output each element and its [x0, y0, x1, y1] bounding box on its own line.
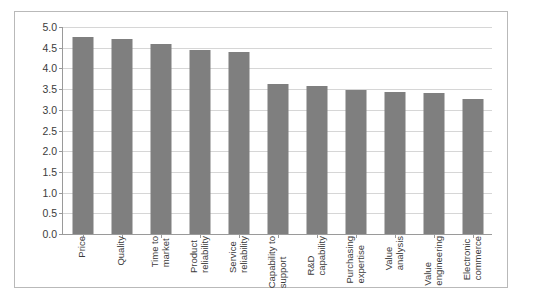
x-axis-tick-label-line: reliability [238, 236, 249, 273]
x-axis-tick-label-line: engineering [433, 236, 444, 286]
y-axis-tick-label: 3.5 [42, 84, 57, 95]
plot-area: 0.00.51.01.52.02.53.03.54.04.55.0 [62, 27, 492, 235]
bar-series [63, 27, 492, 234]
x-axis-label-slot: Price [62, 236, 101, 289]
x-axis-label-slot: Quality [101, 236, 140, 289]
bar[interactable] [423, 93, 444, 234]
x-axis-tick-label-line: expertise [355, 236, 366, 284]
bar-slot [219, 27, 258, 234]
x-axis-label-slot: Productreliability [179, 236, 218, 289]
x-axis-label-slot: R&Dcapability [296, 236, 335, 289]
bar-slot [375, 27, 414, 234]
x-axis-tick-label: R&Dcapability [305, 236, 326, 276]
x-axis-labels: PriceQualityTime tomarketProductreliabil… [62, 236, 491, 289]
y-axis-tick-label: 2.5 [42, 125, 57, 136]
x-axis-label-slot: Time tomarket [140, 236, 179, 289]
x-axis-tick-label-line: Product [188, 236, 199, 273]
bar[interactable] [462, 99, 483, 234]
bar[interactable] [267, 84, 288, 234]
bar[interactable] [384, 92, 405, 234]
x-axis-tick-label: Productreliability [188, 236, 209, 273]
x-axis-label-slot: Valueanalysis [374, 236, 413, 289]
x-axis-tick-label-line: Purchasing [344, 236, 355, 284]
x-axis-tick-label-line: Time to [149, 236, 160, 267]
x-axis-tick-label-line: support [277, 236, 288, 288]
bar[interactable] [306, 86, 327, 234]
bar[interactable] [189, 50, 210, 234]
x-axis-tick-label-line: capability [316, 236, 327, 276]
x-axis-label-slot: Capability tosupport [257, 236, 296, 289]
bar-slot [141, 27, 180, 234]
bar[interactable] [228, 52, 249, 234]
x-axis-tick-label-line: Service [227, 236, 238, 273]
x-axis-tick-label: Price [76, 236, 87, 258]
x-axis-tick-label: Electroniccommerce [461, 236, 482, 280]
y-axis-tick-label: 0.5 [42, 208, 57, 219]
y-axis-tick-mark [59, 234, 63, 235]
bar-slot [414, 27, 453, 234]
y-axis-tick-label: 2.0 [42, 146, 57, 157]
x-axis-tick-label: Purchasingexpertise [344, 236, 365, 284]
x-axis-tick-label-line: Price [76, 236, 87, 258]
x-axis-tick-label: Capability tosupport [266, 236, 287, 288]
bar[interactable] [345, 90, 366, 234]
x-axis-tick-label-line: Value [383, 236, 394, 270]
bar[interactable] [72, 37, 93, 234]
y-axis-tick-label: 4.5 [42, 42, 57, 53]
bar-slot [336, 27, 375, 234]
bar-chart: 0.00.51.01.52.02.53.03.54.04.55.0 PriceQ… [15, 12, 509, 289]
bar[interactable] [111, 39, 132, 234]
y-axis-tick-label: 0.0 [42, 229, 57, 240]
bar[interactable] [150, 44, 171, 234]
bar-slot [453, 27, 492, 234]
x-axis-tick-label-line: Quality [115, 236, 126, 266]
bar-slot [180, 27, 219, 234]
x-axis-tick-label: Valueengineering [422, 236, 443, 286]
y-axis-tick-label: 1.0 [42, 187, 57, 198]
x-axis-label-slot: Servicereliability [218, 236, 257, 289]
x-axis-tick-label: Valueanalysis [383, 236, 404, 270]
chart-figure: 0.00.51.01.52.02.53.03.54.04.55.0 PriceQ… [14, 11, 508, 288]
x-axis-tick-label-line: commerce [472, 236, 483, 280]
y-axis-tick-label: 3.0 [42, 105, 57, 116]
x-axis-label-slot: Purchasingexpertise [335, 236, 374, 289]
x-axis-tick-label: Servicereliability [227, 236, 248, 273]
x-axis-tick-label-line: Electronic [461, 236, 472, 280]
x-axis-tick-label-line: Value [422, 236, 433, 286]
x-axis-tick-label: Time tomarket [149, 236, 170, 267]
y-axis-tick-label: 1.5 [42, 167, 57, 178]
x-axis-label-slot: Electroniccommerce [452, 236, 491, 289]
x-axis-tick-label-line: market [160, 236, 171, 267]
x-axis-tick-label: Quality [115, 236, 126, 266]
x-axis-tick-label-line: R&D [305, 236, 316, 276]
x-axis-tick-label-line: reliability [199, 236, 210, 273]
bar-slot [102, 27, 141, 234]
bar-slot [297, 27, 336, 234]
x-axis-tick-label-line: Capability to [266, 236, 277, 288]
y-axis-tick-label: 5.0 [42, 22, 57, 33]
bar-slot [258, 27, 297, 234]
bar-slot [63, 27, 102, 234]
y-axis-tick-label: 4.0 [42, 63, 57, 74]
x-axis-tick-label-line: analysis [394, 236, 405, 270]
x-axis-label-slot: Valueengineering [413, 236, 452, 289]
